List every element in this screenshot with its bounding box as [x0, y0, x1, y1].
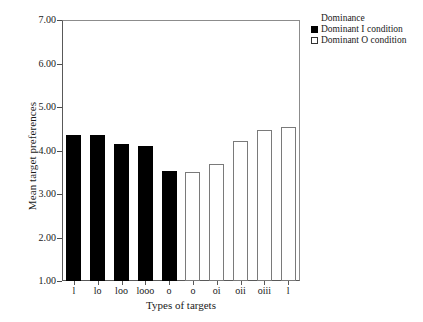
- bar: [138, 146, 153, 281]
- y-axis-tick-label: 3.00: [22, 189, 56, 199]
- legend-item-label: Dominant O condition: [321, 35, 407, 46]
- x-axis-tick-label: o: [167, 285, 172, 297]
- bar: [281, 127, 296, 281]
- bar: [209, 164, 224, 281]
- x-axis-tick-label: oii: [235, 285, 246, 297]
- y-axis-tick-label: 7.00: [22, 15, 56, 25]
- y-axis-tick-label: 2.00: [22, 233, 56, 243]
- bar: [233, 141, 248, 282]
- legend-swatch-icon: [311, 37, 318, 44]
- legend-item[interactable]: Dominant I condition: [311, 24, 421, 35]
- bar: [185, 172, 200, 281]
- legend-swatch-icon: [311, 26, 318, 33]
- bar: [114, 144, 129, 281]
- bars-layer: [62, 20, 300, 281]
- y-axis-tick-label: 1.00: [22, 276, 56, 286]
- x-axis-tick-label: oi: [213, 285, 221, 297]
- bar-chart: Mean target preferences 1.002.003.004.00…: [0, 0, 423, 322]
- bar: [162, 171, 177, 281]
- bar: [66, 135, 81, 281]
- y-axis-tick-label: 5.00: [22, 102, 56, 112]
- legend-item-label: Dominant I condition: [321, 24, 403, 35]
- legend-items: Dominant I conditionDominant O condition: [311, 24, 421, 46]
- legend: Dominance Dominant I conditionDominant O…: [311, 13, 421, 46]
- x-axis-title: Types of targets: [62, 299, 300, 311]
- x-axis-tick-label: o: [190, 285, 195, 297]
- y-axis-tick-labels: 1.002.003.004.005.006.007.00: [16, 0, 56, 322]
- y-axis-tick-label: 4.00: [22, 146, 56, 156]
- x-axis-tick-label: l: [287, 285, 290, 297]
- x-axis-tick-labels: lloloolooooooioiioiiil: [62, 285, 300, 299]
- bar: [257, 130, 272, 281]
- x-axis-tick-label: looo: [136, 285, 154, 297]
- bar: [90, 135, 105, 281]
- x-axis-tick-label: loo: [115, 285, 128, 297]
- legend-item[interactable]: Dominant O condition: [311, 35, 421, 46]
- x-axis-tick-label: l: [73, 285, 76, 297]
- x-axis-tick-label: lo: [94, 285, 102, 297]
- legend-title: Dominance: [321, 13, 421, 24]
- y-axis-tick-label: 6.00: [22, 59, 56, 69]
- x-axis-tick-label: oiii: [258, 285, 271, 297]
